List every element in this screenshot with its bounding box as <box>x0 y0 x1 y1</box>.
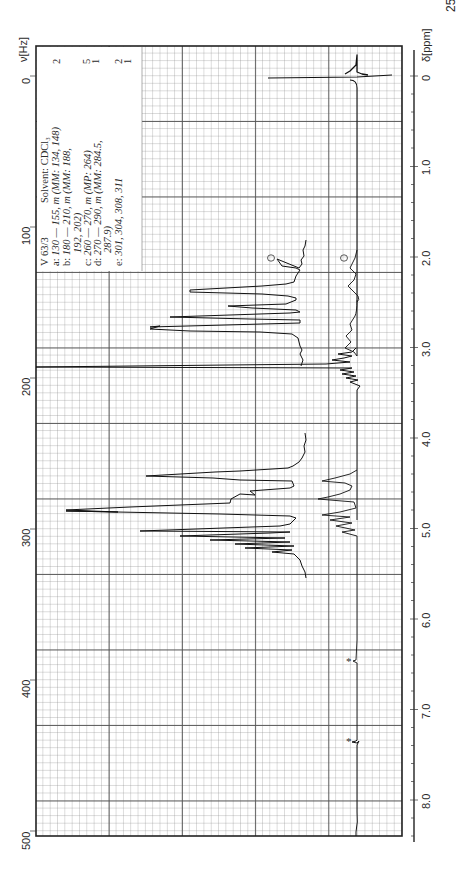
hz-tick-300: 300 <box>20 529 32 547</box>
asterisk-marker-6-6ppm: * <box>346 655 352 667</box>
integration-e2: 1 <box>123 59 134 64</box>
ppm-tick-2: 2.0 <box>420 251 432 266</box>
hz-tick-100: 100 <box>20 227 32 245</box>
legend-solvent: Solvent: CDCl₃ <box>40 137 51 203</box>
hz-tick-0: 0 <box>20 78 32 84</box>
ppm-tick-3: 3.0 <box>420 342 432 357</box>
integration-a: 2 <box>52 59 63 64</box>
ppm-axis-label: δ[ppm] <box>420 28 432 62</box>
hz-tick-500: 500 <box>20 832 32 850</box>
legend-line-a: a: 130 — 155, m (MM: 134, 148) <box>51 127 62 266</box>
hz-tick-200: 200 <box>20 378 32 396</box>
ppm-tick-4: 4.0 <box>420 432 432 447</box>
ppm-tick-0: 0 <box>420 75 432 81</box>
hz-axis <box>30 76 36 831</box>
ppm-tick-6: 6.0 <box>420 613 432 628</box>
ppm-tick-7: 7.0 <box>420 704 432 719</box>
nmr-spectrum-page: * * V 63/3 Solvent: CDCl₃ a: 130 — 155, … <box>0 0 456 881</box>
ppm-tick-5: 5.0 <box>420 523 432 538</box>
legend-line-e: e: 301, 304, 308, 311 <box>114 178 125 266</box>
integration-d: 1 <box>91 59 102 64</box>
hz-axis-label: ν[Hz] <box>17 37 29 62</box>
hz-tick-400: 400 <box>20 680 32 698</box>
ppm-tick-8: 8.0 <box>420 794 432 809</box>
ppm-tick-1: 1.0 <box>420 160 432 175</box>
legend-id: V 63/3 <box>40 237 51 266</box>
page-number: 25 <box>444 0 456 12</box>
legend-line-d-cont: 287.9) <box>103 226 114 253</box>
asterisk-marker-7-3ppm: * <box>346 735 352 747</box>
legend-line-b: b: 180 — 210, m (MM: 188, <box>62 148 73 266</box>
nmr-chart: * * <box>0 0 456 881</box>
